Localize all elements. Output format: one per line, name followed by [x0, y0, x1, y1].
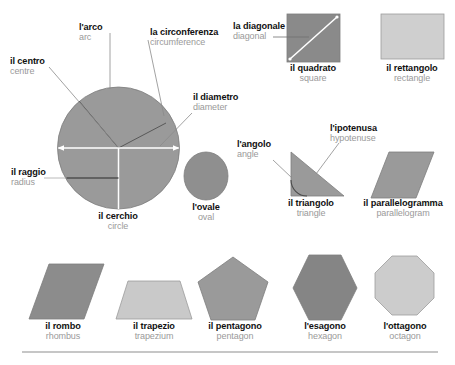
shapes-illustration: [0, 0, 455, 365]
label-parallelogram-en: parallelogram: [363, 209, 442, 219]
rectangle-shape: [381, 14, 444, 59]
diagram-canvas: l'arco arc la circonferenza circumferenc…: [0, 0, 455, 365]
square-diagonal-endpoint-bottom: [288, 57, 291, 60]
label-oval-en: oval: [192, 213, 220, 223]
label-triangle-en: triangle: [288, 209, 334, 219]
label-hexagon-en: hexagon: [304, 332, 346, 342]
label-circumference-en: circumference: [150, 38, 218, 48]
label-trapezium-en: trapezium: [133, 332, 175, 342]
label-square: il quadrato square: [290, 64, 336, 84]
leader-angle: [273, 160, 292, 178]
label-circle: il cerchio circle: [98, 212, 137, 232]
label-hypotenuse: l'ipotenusa hypotenuse: [330, 124, 377, 144]
label-trapezium: il trapezio trapezium: [133, 322, 175, 342]
rhombus-shape: [29, 264, 104, 319]
trapezium-shape: [116, 281, 192, 319]
pentagon-shape: [198, 257, 268, 320]
triangle-shape: [291, 152, 344, 196]
label-diameter-en: diameter: [193, 103, 238, 113]
label-angle: l'angolo angle: [237, 140, 271, 160]
label-triangle: il triangolo triangle: [288, 199, 334, 219]
label-arc-en: arc: [79, 33, 103, 43]
label-pentagon-en: pentagon: [208, 332, 261, 342]
label-rectangle: il rettangolo rectangle: [386, 64, 437, 84]
parallelogram-shape: [371, 152, 434, 198]
label-arc: l'arco arc: [79, 23, 103, 43]
label-oval: l'ovale oval: [192, 203, 220, 223]
label-diameter: il diametro diameter: [193, 93, 238, 113]
label-rectangle-en: rectangle: [386, 74, 437, 84]
label-pentagon: il pentagono pentagon: [208, 322, 261, 342]
label-circumference: la circonferenza circumference: [150, 28, 218, 48]
label-angle-en: angle: [237, 150, 271, 160]
label-centre-en: centre: [10, 67, 45, 77]
label-radius-en: radius: [11, 178, 46, 188]
label-parallelogram: il parallelogramma parallelogram: [363, 199, 442, 219]
label-octagon: l'ottagono octagon: [383, 322, 426, 342]
label-hexagon: l'esagono hexagon: [304, 322, 346, 342]
label-centre: il centro centre: [10, 57, 45, 77]
label-hypotenuse-en: hypotenuse: [330, 134, 377, 144]
oval-shape: [184, 152, 228, 200]
label-diagonal: la diagonale diagonal: [233, 22, 285, 42]
leader-hypotenuse: [316, 143, 339, 174]
label-rhombus-en: rhombus: [45, 332, 80, 342]
label-rhombus: il rombo rhombus: [45, 322, 80, 342]
label-radius: il raggio radius: [11, 168, 46, 188]
square-diagonal-endpoint-top: [335, 15, 338, 18]
label-square-en: square: [290, 74, 336, 84]
octagon-shape: [375, 256, 434, 315]
label-octagon-en: octagon: [383, 332, 426, 342]
hexagon-shape: [293, 255, 357, 320]
label-circle-en: circle: [98, 222, 137, 232]
label-diagonal-en: diagonal: [233, 32, 285, 42]
